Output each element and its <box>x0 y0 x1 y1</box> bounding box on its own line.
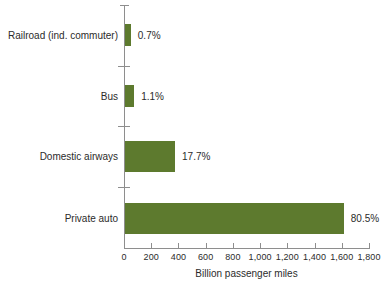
y-axis-tick <box>118 187 130 188</box>
plot-area: Railroad (ind. commuter) Bus Domestic ai… <box>0 0 381 287</box>
x-axis-tick <box>206 243 207 249</box>
y-axis-tick <box>118 126 130 127</box>
x-axis-tick-label: 1,000 <box>249 252 272 262</box>
bar-private-auto[interactable] <box>125 203 344 234</box>
x-axis-tick <box>315 243 316 249</box>
x-axis-tick <box>151 243 152 249</box>
value-label-bus: 1.1% <box>141 91 164 102</box>
bar-bus[interactable] <box>125 85 134 107</box>
x-axis-tick-label: 800 <box>225 252 240 262</box>
x-axis-tick <box>369 243 370 249</box>
category-label-domestic-airways: Domestic airways <box>0 151 118 162</box>
x-axis-tick <box>342 243 343 249</box>
bar-railroad[interactable] <box>125 24 131 46</box>
x-axis-tick-label: 200 <box>144 252 159 262</box>
x-axis-tick-label: 600 <box>198 252 213 262</box>
x-axis-tick <box>178 243 179 249</box>
category-label-private-auto: Private auto <box>0 213 118 224</box>
x-axis-tick <box>233 243 234 249</box>
y-axis-tick <box>118 66 130 67</box>
x-axis-tick-label: 1,800 <box>357 252 380 262</box>
value-label-private-auto: 80.5% <box>351 213 379 224</box>
x-axis-tick-label: 0 <box>121 252 126 262</box>
bar-domestic-airways[interactable] <box>125 141 175 172</box>
value-label-railroad: 0.7% <box>138 30 161 41</box>
x-axis-title: Billion passenger miles <box>124 268 369 279</box>
value-label-domestic-airways: 17.7% <box>182 151 210 162</box>
category-label-bus: Bus <box>0 91 118 102</box>
x-axis-tick-label: 400 <box>171 252 186 262</box>
bar-chart: Railroad (ind. commuter) Bus Domestic ai… <box>0 0 381 287</box>
x-axis-line <box>124 248 369 249</box>
x-axis-tick-label: 1,600 <box>330 252 353 262</box>
x-axis-tick-label: 1,400 <box>303 252 326 262</box>
x-axis-tick-label: 1,200 <box>276 252 299 262</box>
x-axis-tick <box>287 243 288 249</box>
x-axis-tick <box>260 243 261 249</box>
category-label-railroad: Railroad (ind. commuter) <box>0 30 118 41</box>
x-axis-tick <box>124 243 125 249</box>
